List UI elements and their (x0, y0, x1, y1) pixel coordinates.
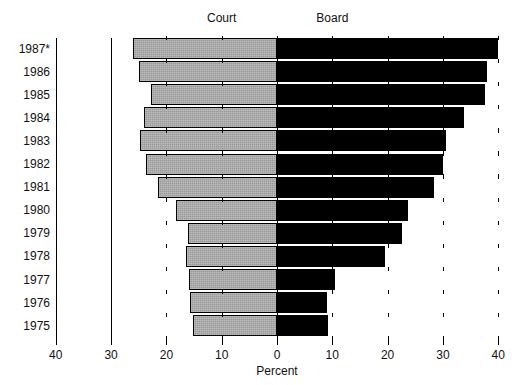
tick-mark (332, 105, 333, 109)
x-axis-tick-label: 0 (274, 348, 281, 362)
tick-mark (443, 151, 444, 155)
tick-mark (332, 82, 333, 86)
tick-mark (222, 82, 223, 86)
x-axis-tick (498, 336, 499, 345)
bar-court-1985 (151, 84, 277, 105)
tick-mark (277, 221, 278, 225)
tick-mark (222, 151, 223, 155)
bar-board-1978 (277, 246, 385, 267)
tick-mark (388, 221, 389, 225)
x-axis-tick-label: 30 (104, 348, 117, 362)
bar-row (0, 154, 520, 175)
x-axis-tick (388, 336, 389, 345)
bar-row (0, 38, 520, 59)
tick-mark (443, 128, 444, 132)
tick-mark (222, 313, 223, 317)
bar-row (0, 315, 520, 336)
tick-mark (332, 290, 333, 294)
x-axis-tick (332, 336, 333, 345)
bar-board-1984 (277, 107, 464, 128)
x-axis-tick-label: 20 (381, 348, 394, 362)
tick-mark (443, 105, 444, 109)
tick-mark (332, 267, 333, 271)
bar-board-1987 (277, 38, 498, 59)
tick-mark (166, 290, 167, 294)
bar-court-1978 (186, 246, 277, 267)
tick-mark (277, 267, 278, 271)
x-axis-tick-label: 10 (326, 348, 339, 362)
tick-mark (277, 198, 278, 202)
tick-mark (498, 59, 499, 63)
x-axis-tick-label: 20 (160, 348, 173, 362)
tick-mark (277, 290, 278, 294)
tick-mark (166, 313, 167, 317)
x-axis-tick (111, 336, 112, 345)
bar-row (0, 130, 520, 151)
tick-mark (332, 244, 333, 248)
tick-mark (498, 313, 499, 317)
tick-mark (388, 82, 389, 86)
tick-mark (277, 82, 278, 86)
tick-mark (166, 82, 167, 86)
tick-mark (443, 290, 444, 294)
x-axis-tick (222, 336, 223, 345)
bar-row (0, 107, 520, 128)
tick-mark (166, 59, 167, 63)
tick-mark (277, 36, 278, 40)
bar-court-1976 (190, 292, 277, 313)
tick-mark (222, 174, 223, 178)
tick-mark (443, 198, 444, 202)
tick-mark (498, 244, 499, 248)
tick-mark (388, 151, 389, 155)
tick-mark (498, 36, 499, 40)
tick-mark (222, 267, 223, 271)
bar-row (0, 223, 520, 244)
tick-mark (222, 198, 223, 202)
bar-board-1976 (277, 292, 327, 313)
bar-court-1977 (189, 269, 277, 290)
bar-row (0, 292, 520, 313)
tick-mark (277, 105, 278, 109)
bar-row (0, 269, 520, 290)
bar-court-1980 (176, 200, 277, 221)
tick-mark (498, 198, 499, 202)
tick-mark (166, 105, 167, 109)
tick-mark (498, 128, 499, 132)
tick-mark (222, 36, 223, 40)
bar-court-1981 (158, 177, 277, 198)
tick-mark (443, 174, 444, 178)
x-axis-tick (277, 336, 278, 345)
x-axis-title: Percent (256, 364, 297, 378)
tick-mark (388, 290, 389, 294)
bar-court-1982 (146, 154, 277, 175)
tick-mark (388, 105, 389, 109)
tick-mark (443, 244, 444, 248)
tick-mark (332, 59, 333, 63)
tick-mark (443, 267, 444, 271)
tick-mark (443, 313, 444, 317)
bar-board-1980 (277, 200, 408, 221)
tick-mark (388, 36, 389, 40)
plot-area (0, 0, 520, 385)
tick-mark (277, 59, 278, 63)
bar-court-1975 (193, 315, 277, 336)
tick-mark (277, 128, 278, 132)
tick-mark (166, 267, 167, 271)
bar-board-1981 (277, 177, 434, 198)
bar-board-1985 (277, 84, 485, 105)
bar-row (0, 246, 520, 267)
tick-mark (166, 244, 167, 248)
tick-mark (498, 221, 499, 225)
tick-mark (388, 313, 389, 317)
tick-mark (332, 313, 333, 317)
tick-mark (498, 267, 499, 271)
tick-mark (222, 59, 223, 63)
bar-board-1982 (277, 154, 443, 175)
x-axis-tick (166, 336, 167, 345)
tick-mark (443, 36, 444, 40)
bar-board-1975 (277, 315, 328, 336)
tick-mark (443, 59, 444, 63)
tick-mark (388, 174, 389, 178)
tick-mark (332, 174, 333, 178)
bar-row (0, 177, 520, 198)
